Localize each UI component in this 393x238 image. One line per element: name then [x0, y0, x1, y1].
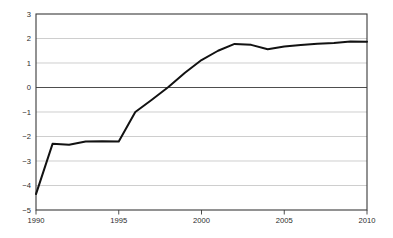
y-tick-label-2: 2 [27, 34, 31, 43]
x-tick-label-2000: 2000 [193, 216, 210, 225]
y-tick-label--2: −2 [22, 132, 31, 141]
x-tick-label-2005: 2005 [276, 216, 293, 225]
line-chart: 3210−1−2−3−4−5 19901995200020052010 [0, 0, 393, 238]
y-tick-label--3: −3 [22, 157, 31, 166]
y-tick-label-1: 1 [27, 59, 31, 68]
data-series-line [36, 41, 367, 194]
x-axis-ticks [36, 210, 367, 215]
y-tick-label--4: −4 [22, 181, 31, 190]
x-tick-label-2010: 2010 [359, 216, 376, 225]
x-tick-label-1990: 1990 [28, 216, 45, 225]
chart-canvas: 3210−1−2−3−4−5 19901995200020052010 [0, 0, 393, 238]
x-tick-label-1995: 1995 [110, 216, 127, 225]
y-axis-tick-labels: 3210−1−2−3−4−5 [22, 10, 31, 215]
y-tick-label-3: 3 [27, 10, 31, 19]
y-tick-label--1: −1 [22, 108, 31, 117]
series-line-1 [36, 41, 367, 194]
y-tick-label-0: 0 [27, 83, 31, 92]
y-tick-label--5: −5 [22, 206, 31, 215]
x-axis-tick-labels: 19901995200020052010 [28, 216, 376, 225]
